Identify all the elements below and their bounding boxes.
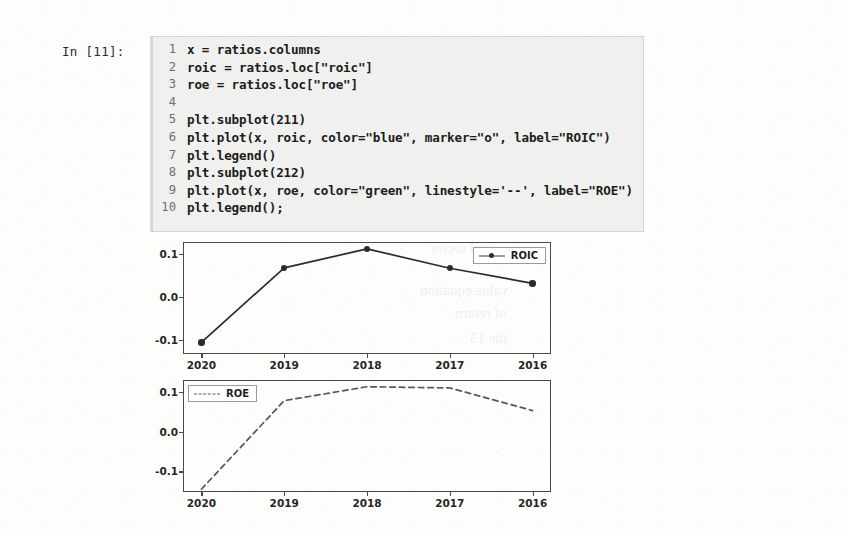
x-tick-label: 2017	[435, 497, 464, 509]
x-tick-mark	[367, 492, 368, 496]
roe-legend-label: ROE	[226, 388, 249, 399]
x-tick-label: 2020	[187, 359, 216, 371]
line-source: plt.legend();	[187, 199, 284, 217]
roe-legend: ROE	[188, 385, 257, 402]
x-tick-mark	[533, 354, 534, 358]
line-source: plt.plot(x, roic, color="blue", marker="…	[187, 129, 611, 147]
line-number: 10	[150, 199, 176, 217]
code-line[interactable]: 4	[150, 94, 633, 112]
code-line[interactable]: 9plt.plot(x, roe, color="green", linesty…	[150, 182, 633, 200]
code-line[interactable]: 7plt.legend()	[150, 147, 633, 165]
y-tick-label: 0.1	[159, 386, 178, 398]
line-number: 5	[150, 111, 176, 129]
x-tick-label: 2020	[187, 497, 216, 509]
line-source: roic = ratios.loc["roic"]	[187, 59, 373, 77]
x-tick-mark	[284, 492, 285, 496]
code-editor-lines[interactable]: 1x = ratios.columns2roic = ratios.loc["r…	[150, 41, 633, 217]
line-number: 8	[150, 164, 176, 182]
y-tick-label: -0.1	[155, 334, 178, 346]
line-number: 4	[150, 94, 176, 112]
y-tick-label: 0.0	[159, 426, 178, 438]
y-tick-mark	[179, 297, 183, 298]
line-source: x = ratios.columns	[187, 41, 321, 59]
x-tick-label: 2018	[352, 359, 381, 371]
line-source: plt.subplot(212)	[187, 164, 306, 182]
line-number: 7	[150, 147, 176, 165]
line-number: 2	[150, 59, 176, 77]
y-tick-mark	[179, 432, 183, 433]
y-tick-mark	[179, 392, 183, 393]
x-tick-label: 2016	[518, 497, 547, 509]
roic-legend-swatch	[479, 251, 505, 261]
y-tick-mark	[179, 340, 183, 341]
x-tick-mark	[201, 354, 202, 358]
data-point-marker	[529, 280, 535, 286]
x-tick-label: 2018	[352, 497, 381, 509]
x-tick-mark	[450, 354, 451, 358]
y-tick-mark	[179, 254, 183, 255]
code-line[interactable]: 8plt.subplot(212)	[150, 164, 633, 182]
x-tick-label: 2017	[435, 359, 464, 371]
line-number: 1	[150, 41, 176, 59]
roic-legend: ROIC	[473, 247, 546, 264]
x-tick-mark	[367, 354, 368, 358]
code-line[interactable]: 3roe = ratios.loc["roe"]	[150, 76, 633, 94]
line-source: plt.subplot(211)	[187, 111, 306, 129]
line-source: plt.plot(x, roe, color="green", linestyl…	[187, 182, 633, 200]
x-tick-label: 2016	[518, 359, 547, 371]
x-tick-mark	[201, 492, 202, 496]
x-tick-mark	[284, 354, 285, 358]
code-line[interactable]: 1x = ratios.columns	[150, 41, 633, 59]
y-tick-label: 0.1	[159, 248, 178, 260]
series-line-roe	[201, 387, 532, 489]
line-source: plt.legend()	[187, 147, 276, 165]
line-source: roe = ratios.loc["roe"]	[187, 76, 358, 94]
code-line[interactable]: 5plt.subplot(211)	[150, 111, 633, 129]
roic-legend-label: ROIC	[511, 250, 538, 261]
roe-legend-swatch	[194, 389, 220, 399]
y-tick-mark	[179, 471, 183, 472]
data-point-marker	[198, 339, 204, 345]
code-line[interactable]: 6plt.plot(x, roic, color="blue", marker=…	[150, 129, 633, 147]
x-tick-mark	[450, 492, 451, 496]
roic-axes: 0.10.0-0.120202019201820172016 ROIC	[183, 242, 551, 354]
x-tick-label: 2019	[270, 359, 299, 371]
roe-axes: 0.10.0-0.120202019201820172016 ROE	[183, 380, 551, 492]
x-tick-mark	[533, 492, 534, 496]
code-line[interactable]: 2roic = ratios.loc["roic"]	[150, 59, 633, 77]
x-tick-label: 2019	[270, 497, 299, 509]
line-number: 3	[150, 76, 176, 94]
cell-input-prompt: In [11]:	[62, 44, 125, 59]
y-tick-label: -0.1	[155, 465, 178, 477]
line-number: 9	[150, 182, 176, 200]
line-number: 6	[150, 129, 176, 147]
matplotlib-figure-output: 0.10.0-0.120202019201820172016 ROIC 0.10…	[0, 232, 848, 535]
y-tick-label: 0.0	[159, 291, 178, 303]
code-line[interactable]: 10plt.legend();	[150, 199, 633, 217]
